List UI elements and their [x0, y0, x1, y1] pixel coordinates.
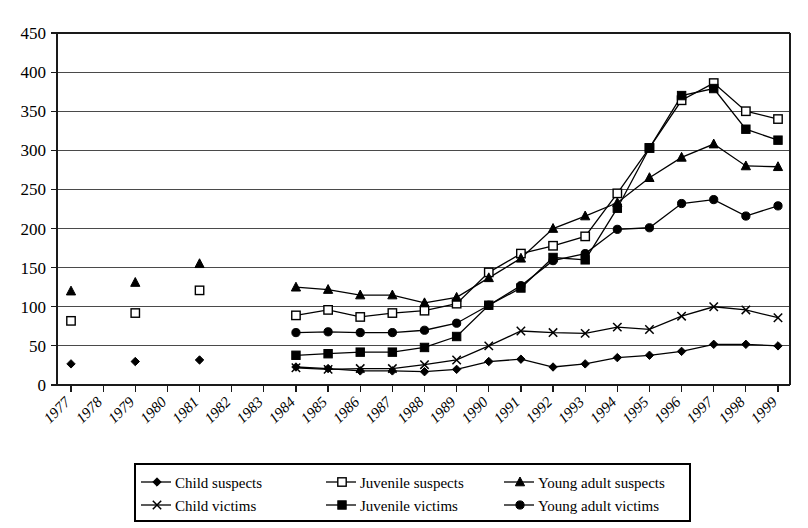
marker-diamond-icon	[677, 347, 685, 355]
marker-diamond-icon	[485, 357, 493, 365]
marker-circle-icon	[324, 328, 332, 336]
legend-entry-label: Juvenile victims	[360, 498, 458, 514]
marker-triangle-icon	[452, 292, 461, 301]
x-tick-label: 1977	[41, 393, 75, 427]
marker-filled-square-icon	[677, 91, 685, 99]
x-tick-label: 1997	[683, 393, 717, 427]
legend-entry-label: Juvenile suspects	[360, 475, 464, 491]
marker-open-square-icon	[742, 107, 750, 115]
marker-diamond-icon	[517, 355, 525, 363]
marker-circle-icon	[549, 257, 557, 265]
marker-triangle-icon	[131, 278, 140, 287]
marker-diamond-icon	[67, 360, 75, 368]
marker-diamond-icon	[645, 351, 653, 359]
marker-open-square-icon	[195, 286, 203, 294]
legend-entry-label: Young adult victims	[538, 498, 659, 514]
x-tick-labels: 1977197819791980198119821983198419851986…	[41, 393, 781, 427]
x-tick-label: 1981	[169, 394, 202, 427]
marker-triangle-icon	[709, 139, 718, 148]
x-tick-label: 1996	[651, 393, 684, 426]
marker-triangle-icon	[645, 173, 654, 182]
marker-open-square-icon	[549, 242, 557, 250]
chart-legend: Child suspectsJuvenile suspectsYoung adu…	[135, 464, 690, 521]
marker-circle-icon	[645, 224, 653, 232]
marker-open-square-icon	[356, 313, 364, 321]
y-tick-label: 50	[29, 337, 46, 356]
marker-circle-icon	[420, 326, 428, 334]
marker-open-square-icon	[774, 115, 782, 123]
marker-diamond-icon	[131, 357, 139, 365]
legend-entry-label: Young adult suspects	[538, 475, 665, 491]
marker-open-square-icon	[292, 311, 300, 319]
marker-open-square-icon	[324, 306, 332, 314]
marker-open-square-icon	[131, 309, 139, 317]
marker-filled-square-icon	[774, 136, 782, 144]
marker-circle-icon	[774, 202, 782, 210]
marker-diamond-icon	[195, 356, 203, 364]
marker-diamond-icon	[581, 360, 589, 368]
marker-triangle-icon	[677, 152, 686, 161]
x-tick-label: 1978	[73, 393, 106, 426]
marker-filled-square-icon	[356, 348, 364, 356]
marker-filled-square-icon	[613, 204, 621, 212]
marker-diamond-icon	[452, 365, 460, 373]
x-tick-label: 1980	[137, 393, 170, 426]
marker-diamond-icon	[742, 340, 750, 348]
x-tick-label: 1998	[715, 393, 748, 426]
marker-triangle-icon	[291, 282, 300, 291]
x-axis	[57, 385, 790, 392]
y-tick-label: 250	[21, 180, 47, 199]
marker-circle-icon	[517, 282, 525, 290]
marker-filled-square-icon	[452, 332, 460, 340]
y-tick-label: 0	[38, 376, 47, 395]
marker-diamond-icon	[549, 363, 557, 371]
marker-triangle-icon	[581, 211, 590, 220]
series-line-young-adult-suspects	[296, 144, 778, 303]
series-line-young-adult-victims	[296, 200, 778, 333]
marker-circle-icon	[581, 249, 589, 257]
marker-triangle-icon	[195, 259, 204, 268]
marker-circle-icon	[388, 328, 396, 336]
series-lines	[296, 83, 778, 372]
marker-diamond-icon	[710, 340, 718, 348]
y-tick-label: 200	[21, 220, 47, 239]
chart-canvas: 050100150200250300350400450 197719781979…	[0, 0, 808, 528]
marker-filled-square-icon	[645, 144, 653, 152]
marker-circle-icon	[613, 225, 621, 233]
x-tick-label: 1990	[458, 393, 491, 426]
y-tick-label: 100	[21, 298, 47, 317]
x-tick-label: 1984	[266, 393, 299, 426]
x-tick-label: 1991	[491, 394, 524, 427]
x-tick-label: 1982	[201, 393, 234, 426]
marker-diamond-icon	[420, 368, 428, 376]
marker-filled-square-icon	[742, 125, 750, 133]
marker-triangle-icon	[741, 161, 750, 170]
marker-circle-icon	[356, 328, 364, 336]
marker-circle-icon	[453, 319, 461, 327]
marker-diamond-icon	[774, 342, 782, 350]
marker-circle-icon	[292, 328, 300, 336]
series-markers	[66, 79, 782, 376]
marker-filled-square-icon	[388, 348, 396, 356]
series-line-juvenile-victims	[296, 89, 778, 356]
x-tick-label: 1999	[748, 393, 781, 426]
marker-filled-square-icon	[710, 84, 718, 92]
legend-entry-label: Child victims	[175, 498, 256, 514]
y-tick-label: 150	[21, 259, 47, 278]
marker-diamond-icon	[613, 353, 621, 361]
marker-open-square-icon	[420, 306, 428, 314]
legend-entry-label: Child suspects	[175, 475, 262, 491]
x-tick-label: 1995	[619, 393, 652, 426]
series-line-child-suspects	[296, 344, 778, 371]
y-tick-label: 450	[21, 24, 47, 43]
marker-filled-square-icon	[292, 351, 300, 359]
y-tick-label: 400	[21, 63, 47, 82]
marker-open-square-icon	[67, 317, 75, 325]
marker-filled-square-icon	[338, 501, 346, 509]
x-tick-label: 1987	[362, 393, 396, 427]
marker-open-square-icon	[388, 309, 396, 317]
marker-open-square-icon	[581, 232, 589, 240]
marker-circle-icon	[516, 501, 524, 509]
marker-circle-icon	[742, 212, 750, 220]
x-tick-label: 1979	[105, 393, 138, 426]
